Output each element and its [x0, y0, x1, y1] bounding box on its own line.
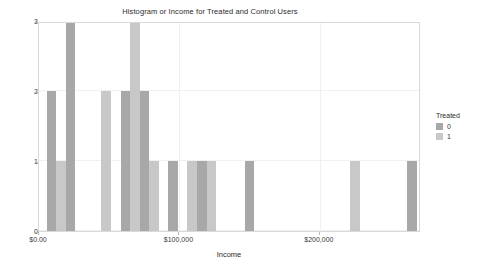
histogram-bar: [47, 91, 57, 231]
histogram-bar: [140, 91, 150, 231]
gridline-horizontal: [39, 160, 419, 161]
legend: Treated 01: [436, 112, 484, 142]
histogram-bar: [207, 161, 217, 231]
x-tick-mark: [319, 232, 320, 235]
histogram-bar: [407, 161, 417, 231]
histogram-bar: [245, 161, 255, 231]
chart-title: Histogram or Income for Treated and Cont…: [0, 7, 420, 16]
legend-entries: 01: [436, 122, 484, 141]
histogram-bar: [121, 91, 131, 231]
legend-item-label: 0: [447, 123, 451, 131]
histogram-bar: [130, 22, 140, 231]
histogram-bar: [149, 161, 159, 231]
x-tick-label: $200,000: [304, 236, 333, 243]
gridline-horizontal: [39, 230, 419, 231]
plot-area: [38, 22, 420, 232]
histogram-chart: Histogram or Income for Treated and Cont…: [0, 0, 485, 278]
legend-title: Treated: [436, 112, 484, 119]
gridline-horizontal: [39, 90, 419, 91]
x-tick-mark: [38, 232, 39, 235]
histogram-bar: [350, 161, 360, 231]
legend-swatch-icon: [436, 123, 443, 130]
gridline-vertical: [320, 23, 321, 231]
histogram-bar: [101, 91, 111, 231]
x-tick-label: $100,000: [164, 236, 193, 243]
histogram-bar: [187, 161, 197, 231]
legend-item[interactable]: 1: [436, 132, 484, 141]
x-axis-title: Income: [38, 250, 420, 259]
histogram-bar: [56, 161, 66, 231]
histogram-bar: [168, 161, 178, 231]
legend-item[interactable]: 0: [436, 122, 484, 131]
legend-swatch-icon: [436, 133, 443, 140]
gridline-vertical: [179, 23, 180, 231]
legend-item-label: 1: [447, 133, 451, 141]
x-tick-label: $0.00: [29, 236, 47, 243]
y-axis: Count 0123: [0, 22, 38, 232]
histogram-bar: [197, 161, 207, 231]
histogram-bar: [66, 22, 76, 231]
x-tick-mark: [178, 232, 179, 235]
